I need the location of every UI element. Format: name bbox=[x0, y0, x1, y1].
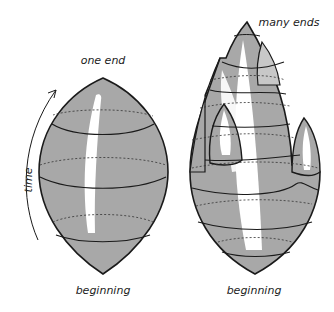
one-end-label: one end bbox=[81, 54, 127, 67]
time-label: time bbox=[22, 167, 35, 192]
diagram-canvas: time one end beginning many ends bbox=[0, 0, 334, 312]
left-beginning-label: beginning bbox=[76, 284, 131, 297]
many-ends-label: many ends bbox=[259, 16, 320, 29]
many-ends-shape bbox=[190, 22, 320, 274]
right-beginning-label: beginning bbox=[227, 284, 282, 297]
single-end-shape bbox=[39, 78, 168, 274]
